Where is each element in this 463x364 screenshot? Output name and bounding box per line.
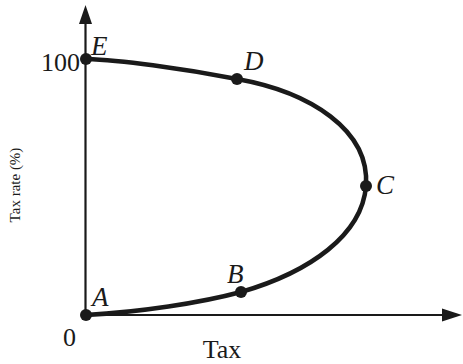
point-d-marker: [231, 73, 243, 85]
point-e-label: E: [90, 31, 108, 61]
point-a-label: A: [90, 282, 109, 312]
y-tick-100: 100: [41, 48, 80, 77]
point-a-marker: [80, 309, 92, 321]
x-axis-arrowhead-icon: [442, 309, 462, 322]
origin-label: 0: [63, 323, 76, 352]
point-b-label: B: [227, 259, 244, 289]
point-c-marker: [360, 180, 372, 192]
point-d-label: D: [243, 46, 264, 76]
y-axis-title: Tax rate (%): [7, 148, 24, 223]
x-axis-title: Tax: [203, 335, 242, 364]
point-c-label: C: [376, 170, 395, 200]
y-axis-arrowhead-icon: [79, 5, 92, 24]
laffer-curve-diagram: A B C D E 100 0 Tax Tax rate (%): [0, 0, 463, 364]
